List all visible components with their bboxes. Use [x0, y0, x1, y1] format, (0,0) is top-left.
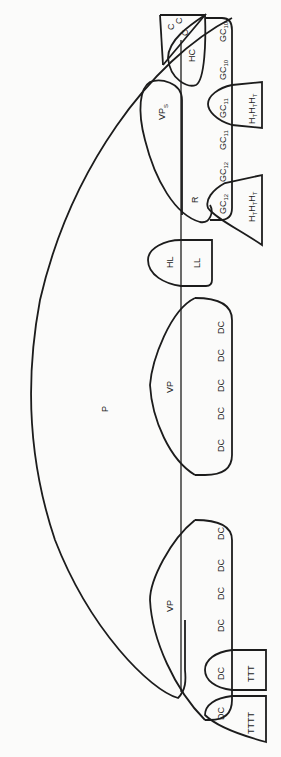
label-dc-m5: DC: [216, 439, 226, 452]
label-ttt: TTT: [246, 665, 256, 682]
label-gc12-b: GC12: [218, 193, 229, 214]
label-ht-upper: HTHTHT: [247, 93, 258, 124]
ttt-shape: [205, 650, 266, 690]
label-gc11-b: GC11: [218, 130, 229, 150]
label-dc-l1: DC: [216, 527, 226, 540]
label-gc10-b: GC10: [218, 59, 229, 80]
label-vp-middle: VP: [165, 381, 175, 393]
vps-region-outline: [140, 81, 211, 223]
c-triangle-left: [160, 15, 163, 65]
label-p: P: [100, 406, 110, 412]
label-c-2: C: [174, 17, 184, 24]
cerebellar-circuit-diagram: P VPS R HC C C C HL LL VP VP GC10 GC10 G…: [0, 0, 281, 757]
label-dc-m2: DC: [216, 349, 226, 362]
label-ht-lower: HTHTHT: [247, 191, 258, 222]
label-dc-m3: DC: [216, 379, 226, 392]
label-hl: HL: [165, 256, 175, 268]
label-dc-l2: DC: [216, 559, 226, 572]
label-dc-l5: DC: [216, 667, 226, 680]
label-dc-l6: DC: [216, 707, 226, 720]
label-vps: VPS: [157, 104, 169, 120]
label-c-3: C: [180, 29, 190, 36]
label-gc12-a: GC12: [218, 161, 229, 182]
label-dc-l3: DC: [216, 587, 226, 600]
p-region-outline: [31, 18, 232, 698]
vp-lower-outline: [150, 520, 205, 720]
label-tttt: TTTT: [246, 712, 256, 734]
label-dc-m1: DC: [216, 321, 226, 334]
dc-box-middle: [195, 298, 232, 475]
label-vp-lower: VP: [165, 600, 175, 612]
hl-ll-shape: [148, 240, 212, 286]
label-ll: LL: [192, 258, 202, 268]
label-dc-l4: DC: [216, 619, 226, 632]
label-dc-m4: DC: [216, 407, 226, 420]
label-hc: HC: [187, 49, 197, 62]
label-r: R: [190, 196, 200, 203]
label-gc11-a: GC11: [218, 98, 229, 118]
